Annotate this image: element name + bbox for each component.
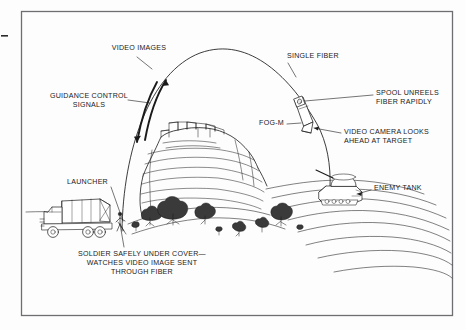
label-spool-unreels-line1: SPOOL UNREELS xyxy=(376,89,439,98)
label-enemy-tank: ENEMY TANK xyxy=(374,184,422,193)
truck-wheel xyxy=(83,227,94,238)
label-launcher: LAUNCHER xyxy=(67,178,108,187)
tank-turret-top xyxy=(332,174,356,180)
edge-tick-artifact xyxy=(1,35,8,37)
tank-road-wheel xyxy=(325,200,329,204)
label-video-camera-line1: VIDEO CAMERA LOOKS xyxy=(344,128,429,137)
label-soldier-line1: SOLDIER SAFELY UNDER COVER— xyxy=(78,250,206,259)
label-fog-m: FOG-M xyxy=(259,119,284,128)
label-soldier-line2: WATCHES VIDEO IMAGE SENT xyxy=(87,259,197,268)
label-guidance-control-line2: SIGNALS xyxy=(73,101,106,110)
tank-road-wheel xyxy=(339,200,343,204)
label-video-camera-line2: AHEAD AT TARGET xyxy=(344,137,412,146)
tank-road-wheel xyxy=(346,200,350,204)
label-soldier-line3: THROUGH FIBER xyxy=(111,268,173,277)
fog-m-diagram-svg xyxy=(0,0,466,330)
label-video-images: VIDEO IMAGES xyxy=(112,44,167,53)
truck-cargo-canopy xyxy=(62,199,110,223)
figure-page: VIDEO IMAGES GUIDANCE CONTROL SIGNALS SI… xyxy=(0,0,466,330)
bush xyxy=(297,225,304,230)
label-single-fiber: SINGLE FIBER xyxy=(287,52,339,61)
truck-wheel xyxy=(95,227,106,238)
truck-wheel xyxy=(48,227,59,238)
label-guidance-control-line1: GUIDANCE CONTROL xyxy=(50,92,128,101)
tank-road-wheel xyxy=(332,200,336,204)
label-spool-unreels-line2: FIBER RAPIDLY xyxy=(376,98,432,107)
